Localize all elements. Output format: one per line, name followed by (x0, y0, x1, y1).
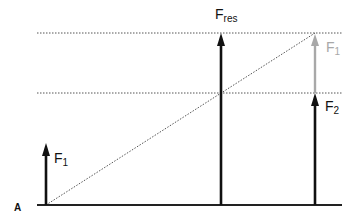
point-a-label: A (14, 202, 21, 213)
force-f2-label: F2 (325, 98, 340, 116)
force-f1-shifted-label: F1 (326, 39, 341, 57)
force-f2-arrow (311, 93, 319, 205)
diagonal-guide-line (46, 33, 315, 205)
force-f1-label: F1 (54, 150, 69, 168)
force-fres-arrow (217, 33, 225, 205)
force-diagram: A F1 Fres F2 F1 (0, 0, 360, 221)
force-f1-shifted-arrow (311, 34, 319, 93)
force-fres-label: Fres (215, 6, 237, 24)
force-f1-arrow (42, 143, 50, 205)
